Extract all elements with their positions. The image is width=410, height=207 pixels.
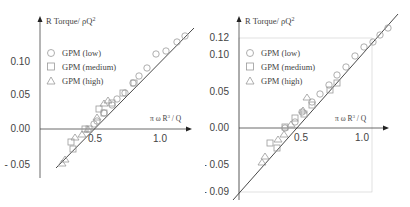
y-axis-arrow-icon: [237, 16, 242, 22]
legend-label: GPM (low): [261, 48, 300, 58]
y-tick-label: - 0.05: [205, 159, 229, 170]
x-axis-label: π ω R3 / Q: [335, 114, 367, 123]
x-tick-label: 0.5: [88, 133, 102, 144]
legend-label: GPM (high): [62, 76, 103, 86]
left-chart-svg: 0.10 0.05 0.00 - 0.05 0.5 1.0 R Torque/ …: [0, 0, 205, 207]
y-tick-label: 0.12: [210, 32, 230, 43]
circle-marker-icon: [48, 50, 55, 57]
legend-label: GPM (high): [261, 76, 302, 86]
y-axis-arrow-icon: [38, 16, 43, 22]
series-medium: [68, 80, 137, 152]
y-tick-label: - 0.09: [205, 186, 229, 197]
y-tick-label: 0.10: [11, 56, 31, 67]
left-chart: 0.10 0.05 0.00 - 0.05 0.5 1.0 R Torque/ …: [0, 0, 205, 207]
series-high: [258, 94, 311, 165]
x-axis-arrow-icon: [186, 127, 192, 132]
legend: GPM (low) GPM (medium) GPM (high): [47, 48, 116, 86]
legend-label: GPM (medium): [261, 62, 315, 72]
x-axis-arrow-icon: [383, 126, 389, 131]
y-tick-label: 0.00: [210, 122, 230, 133]
y-axis-label: R Torque/ ρQ2: [245, 16, 294, 26]
right-chart-svg: 0.12 0.10 0.05 0.00 - 0.05 - 0.09 0.5 1.…: [205, 0, 410, 207]
square-marker-icon: [247, 63, 254, 70]
y-tick-label: 0.05: [11, 89, 31, 100]
triangle-marker-icon: [246, 77, 254, 84]
y-axis-label: R Torque/ ρQ2: [46, 16, 95, 26]
circle-marker-icon: [247, 50, 254, 57]
y-tick-label: 0.00: [11, 123, 31, 134]
x-tick-label: 1.0: [355, 132, 369, 143]
y-tick-label: 0.10: [210, 49, 230, 60]
fit-line: [233, 14, 398, 200]
right-chart: 0.12 0.10 0.05 0.00 - 0.05 - 0.09 0.5 1.…: [205, 0, 410, 207]
legend-label: GPM (medium): [62, 62, 116, 72]
x-axis-label: π ω R3 / Q: [150, 114, 182, 123]
series-high: [58, 97, 112, 166]
legend-label: GPM (low): [62, 48, 101, 58]
y-tick-label: - 0.05: [4, 159, 30, 170]
triangle-marker-icon: [47, 77, 55, 84]
x-tick-label: 0.5: [294, 132, 308, 143]
x-tick-label: 1.0: [153, 133, 167, 144]
square-marker-icon: [48, 63, 55, 70]
legend: GPM (low) GPM (medium) GPM (high): [246, 48, 315, 86]
y-tick-label: 0.05: [210, 86, 230, 97]
